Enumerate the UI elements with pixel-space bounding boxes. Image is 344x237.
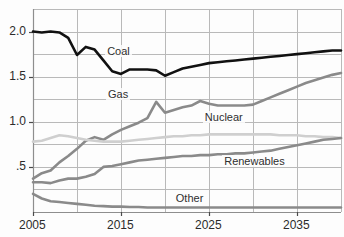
series-label-renewables: Renewables	[222, 155, 287, 167]
x-tick-label: 2035	[283, 218, 310, 232]
series-line-nuclear	[33, 134, 341, 141]
x-tick-label: 2015	[107, 218, 134, 232]
series-label-coal: Coal	[105, 45, 132, 57]
series-label-gas: Gas	[106, 88, 130, 100]
y-tick-label: 2.0	[0, 24, 26, 38]
x-tick-label: 2025	[195, 218, 222, 232]
series-line-coal	[33, 32, 341, 76]
chart-plot-area	[0, 0, 344, 237]
y-tick-label: 1.5	[0, 69, 26, 83]
x-tick-label: 2005	[19, 218, 46, 232]
y-tick-label: .5	[0, 159, 26, 173]
series-label-other: Other	[174, 192, 206, 204]
caption-fragment	[6, 231, 156, 237]
y-tick-label: 1.0	[0, 114, 26, 128]
line-chart: .51.01.52.0 2005201520252035 CoalGasNucl…	[0, 0, 344, 237]
series-line-gas	[33, 73, 341, 179]
series-label-nuclear: Nuclear	[203, 111, 245, 123]
